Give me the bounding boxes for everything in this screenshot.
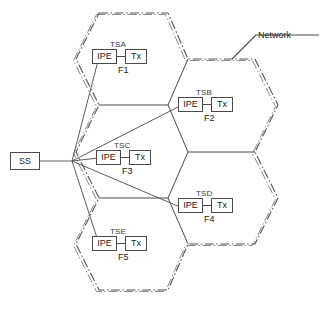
cell-f3-tx-box[interactable]: Tx: [129, 150, 151, 165]
ss-node[interactable]: SS: [10, 152, 40, 170]
cell-grid-canvas: [0, 0, 320, 311]
cell-f3-boxes: IPE Tx: [96, 150, 151, 165]
cell-f1-ipe-box[interactable]: IPE: [92, 49, 117, 64]
cell-f4-site-label: TSD: [196, 189, 213, 198]
cell-f4-boxes: IPE Tx: [178, 198, 233, 213]
cell-f3-frequency-label: F3: [122, 166, 133, 176]
cell-f3-ipe-box[interactable]: IPE: [96, 150, 121, 165]
cell-f2-boxes: IPE Tx: [178, 97, 233, 112]
network-label: Network: [258, 30, 291, 40]
cell-f2-ipe-box[interactable]: IPE: [178, 97, 203, 112]
cell-f4-frequency-label: F4: [204, 214, 215, 224]
cell-f5-boxes: IPE Tx: [92, 236, 147, 251]
cell-f3-site-label: TSC: [114, 141, 131, 150]
cell-f5-frequency-label: F5: [118, 252, 129, 262]
cell-f1-link: [117, 56, 125, 57]
cell-f2-tx-box[interactable]: Tx: [211, 97, 233, 112]
cell-f2-site-label: TSB: [196, 88, 212, 97]
cell-network-diagram: SS Network TSA IPE Tx F1 TSB IPE Tx F2 T…: [0, 0, 320, 311]
cell-f1-site-label: TSA: [110, 40, 126, 49]
cell-f4-ipe-box[interactable]: IPE: [178, 198, 203, 213]
cell-f2-frequency-label: F2: [204, 113, 215, 123]
cell-f3-link: [121, 157, 129, 158]
cell-f2-link: [203, 104, 211, 105]
cell-f5-link: [117, 243, 125, 244]
cell-f5-tx-box[interactable]: Tx: [125, 236, 147, 251]
cell-f1-boxes: IPE Tx: [92, 49, 147, 64]
cell-f1-frequency-label: F1: [118, 65, 129, 75]
cell-f5-site-label: TSE: [110, 227, 126, 236]
cell-f1-tx-box[interactable]: Tx: [125, 49, 147, 64]
cell-f4-link: [203, 205, 211, 206]
cell-f4-tx-box[interactable]: Tx: [211, 198, 233, 213]
cell-f5-ipe-box[interactable]: IPE: [92, 236, 117, 251]
ss-node-label: SS: [19, 156, 31, 166]
